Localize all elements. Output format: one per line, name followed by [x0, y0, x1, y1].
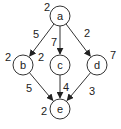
- node-e: e2: [41, 99, 70, 119]
- edge-arrow-icon: [29, 73, 52, 101]
- edge-b-e: 5: [26, 73, 53, 101]
- node-label: d: [94, 59, 100, 71]
- edge-c-e: 4: [60, 75, 69, 98]
- node-c: c2: [38, 51, 70, 75]
- node-weight-label: 2: [38, 51, 44, 63]
- node-b: b2: [5, 51, 33, 75]
- edge-d-e: 3: [67, 73, 95, 101]
- node-label: c: [57, 59, 63, 71]
- edge-a-c: 7: [51, 26, 60, 54]
- node-weight-label: 2: [5, 51, 11, 63]
- edge-weight-label: 4: [63, 81, 69, 93]
- node-a: a2: [44, 1, 70, 26]
- node-weight-label: 2: [44, 1, 50, 13]
- edge-a-d: 2: [66, 24, 90, 56]
- edge-weight-label: 5: [26, 82, 32, 94]
- node-label: b: [20, 59, 26, 71]
- node-d: d7: [87, 49, 116, 75]
- node-label: a: [57, 10, 64, 22]
- edge-weight-label: 2: [84, 27, 90, 39]
- edge-weight-label: 3: [89, 85, 95, 97]
- node-weight-label: 7: [110, 49, 116, 61]
- node-label: e: [57, 103, 63, 115]
- edge-weight-label: 5: [33, 28, 39, 40]
- edge-arrow-icon: [67, 73, 90, 101]
- dag-diagram: 572543 a2b2c2d7e2: [0, 0, 121, 129]
- edge-weight-label: 7: [51, 36, 57, 48]
- node-weight-label: 2: [41, 105, 47, 117]
